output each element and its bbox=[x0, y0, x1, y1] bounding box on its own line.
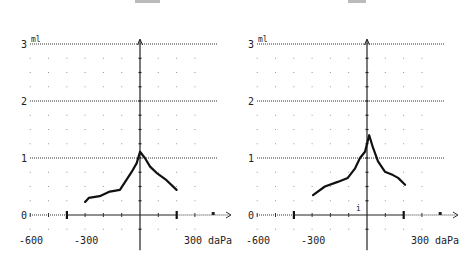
grid-dot bbox=[257, 172, 258, 173]
grid-dot bbox=[85, 129, 86, 130]
grid-dot bbox=[158, 186, 159, 187]
grid-dot bbox=[121, 172, 122, 173]
grid-dot bbox=[257, 129, 258, 130]
range-marker bbox=[176, 211, 178, 219]
grid-dot bbox=[85, 58, 86, 59]
y-unit-label: ml bbox=[258, 35, 268, 44]
grid-dot bbox=[103, 172, 104, 173]
y-tick-label: 2 bbox=[21, 96, 27, 107]
grid-dot bbox=[121, 129, 122, 130]
end-marker bbox=[439, 212, 442, 215]
grid-dot bbox=[293, 200, 294, 201]
grid-dot bbox=[30, 200, 31, 201]
grid-dot bbox=[176, 143, 177, 144]
grid-dot bbox=[330, 143, 331, 144]
grid-dot bbox=[121, 143, 122, 144]
x-tick-label: 300 bbox=[184, 235, 202, 246]
grid-dot bbox=[103, 58, 104, 59]
grid-dot bbox=[85, 115, 86, 116]
grid-dot bbox=[158, 229, 159, 230]
grid-dot bbox=[66, 172, 67, 173]
grid-dot bbox=[421, 58, 422, 59]
y-tick-label: 2 bbox=[248, 96, 254, 107]
grid-dot bbox=[348, 200, 349, 201]
grid-dot bbox=[385, 129, 386, 130]
x-unit-label: daPa bbox=[208, 235, 232, 246]
right-tympanogram: 0123ml-600-300300daPai bbox=[237, 0, 475, 262]
grid-dot bbox=[330, 186, 331, 187]
grid-dot bbox=[176, 200, 177, 201]
grid-dot bbox=[48, 129, 49, 130]
grid-dot bbox=[348, 186, 349, 187]
grid-dot bbox=[293, 129, 294, 130]
grid-dot bbox=[403, 86, 404, 87]
grid-dot bbox=[403, 143, 404, 144]
grid-dot bbox=[48, 72, 49, 73]
grid-dot bbox=[330, 229, 331, 230]
grid-dot bbox=[176, 58, 177, 59]
grid-dot bbox=[385, 143, 386, 144]
grid-dot bbox=[121, 86, 122, 87]
grid-dot bbox=[85, 229, 86, 230]
grid-dot bbox=[293, 72, 294, 73]
grid-dot bbox=[48, 200, 49, 201]
grid-dot bbox=[275, 200, 276, 201]
grid-dot bbox=[176, 72, 177, 73]
grid-dot bbox=[121, 72, 122, 73]
x-tick-label: -300 bbox=[74, 235, 98, 246]
grid-dot bbox=[348, 229, 349, 230]
grid-dot bbox=[158, 115, 159, 116]
grid-dot bbox=[194, 200, 195, 201]
grid-dot bbox=[48, 115, 49, 116]
grid-dot bbox=[330, 58, 331, 59]
grid-dot bbox=[348, 143, 349, 144]
grid-dot bbox=[403, 72, 404, 73]
grid-dot bbox=[176, 129, 177, 130]
grid-dot bbox=[30, 72, 31, 73]
grid-dot bbox=[275, 72, 276, 73]
grid-dot bbox=[312, 129, 313, 130]
grid-dot bbox=[403, 186, 404, 187]
grid-dot bbox=[85, 86, 86, 87]
grid-dot bbox=[312, 72, 313, 73]
grid-dot bbox=[257, 229, 258, 230]
grid-dot bbox=[348, 58, 349, 59]
grid-dot bbox=[30, 58, 31, 59]
grid-dot bbox=[421, 72, 422, 73]
y-tick-label: 0 bbox=[248, 210, 254, 221]
grid-dot bbox=[312, 186, 313, 187]
grid-dot bbox=[293, 58, 294, 59]
grid-dot bbox=[103, 229, 104, 230]
grid-dot bbox=[348, 72, 349, 73]
grid-dot bbox=[421, 129, 422, 130]
grid-dot bbox=[176, 229, 177, 230]
grid-dot bbox=[194, 115, 195, 116]
grid-dot bbox=[421, 86, 422, 87]
grid-dot bbox=[121, 115, 122, 116]
grid-dot bbox=[158, 200, 159, 201]
grid-dot bbox=[66, 129, 67, 130]
left-chart-canvas: 0123ml-600-300300daPa bbox=[0, 0, 237, 262]
grid-dot bbox=[85, 172, 86, 173]
grid-dot bbox=[194, 86, 195, 87]
grid-dot bbox=[293, 86, 294, 87]
grid-dot bbox=[176, 115, 177, 116]
grid-dot bbox=[194, 172, 195, 173]
grid-dot bbox=[421, 172, 422, 173]
grid-dot bbox=[176, 86, 177, 87]
grid-dot bbox=[66, 115, 67, 116]
grid-dot bbox=[66, 58, 67, 59]
grid-dot bbox=[48, 143, 49, 144]
grid-dot bbox=[30, 129, 31, 130]
range-marker bbox=[293, 211, 295, 219]
grid-dot bbox=[385, 86, 386, 87]
grid-dot bbox=[312, 58, 313, 59]
grid-dot bbox=[103, 143, 104, 144]
grid-dot bbox=[275, 172, 276, 173]
grid-dot bbox=[312, 172, 313, 173]
grid-dot bbox=[85, 186, 86, 187]
grid-dot bbox=[385, 229, 386, 230]
grid-dot bbox=[30, 143, 31, 144]
grid-dot bbox=[194, 129, 195, 130]
y-tick-label: 3 bbox=[248, 39, 254, 50]
